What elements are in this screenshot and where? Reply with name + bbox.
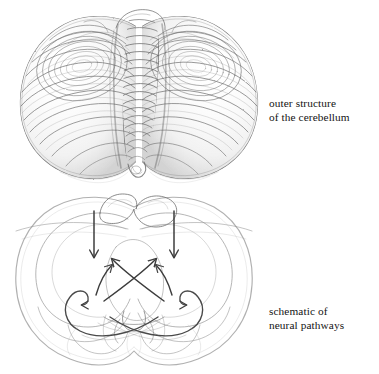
horizontal-fissure [16, 223, 252, 240]
caption-schematic-line2: neural pathways [269, 319, 344, 333]
right-inner-lobe [138, 213, 232, 327]
decussating-arrows [104, 259, 164, 301]
central-nucleus-outline [106, 240, 164, 321]
arrow-inner-left-ascending [96, 265, 112, 295]
right-hemisphere-shading [142, 16, 258, 179]
cerebellum-sketch-strokes [20, 10, 258, 183]
schematic-strokes [16, 194, 252, 365]
caption-outer-structure-line2: of the cerebellum [269, 111, 350, 125]
cerebellum-outer-structure-illustration [8, 6, 270, 186]
outer-silhouette [16, 197, 252, 365]
inferior-vermis-knot [98, 311, 170, 343]
caption-outer-structure: outer structure of the cerebellum [269, 97, 350, 124]
caption-schematic: schematic of neural pathways [269, 305, 344, 332]
left-afferent-loop [65, 291, 160, 340]
caption-schematic-line1: schematic of [269, 305, 344, 319]
figure-root: outer structure of the cerebellum [0, 0, 379, 374]
neural-pathways-schematic-illustration [8, 185, 260, 373]
arrow-inner-right-ascending [156, 265, 172, 295]
caption-outer-structure-line1: outer structure [269, 97, 350, 111]
